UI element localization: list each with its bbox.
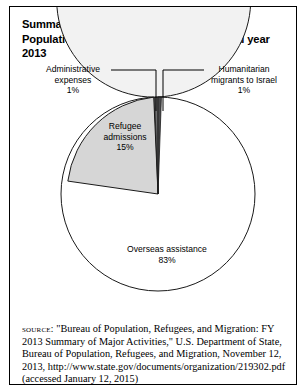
pie-chart-svg [10,7,298,312]
pie-label-overseas-line1: Overseas assistance [104,244,230,255]
callout-humanitarian-line2: migrants to Israel [196,75,292,86]
pie-label-overseas-value: 83% [104,255,230,266]
figure-frame: Summary of major activities of Bureau of… [9,6,297,385]
callout-administrative-value: 1% [27,85,119,96]
pie-label-refugee-line2: admissions [87,132,163,143]
pie-label-refugee-admissions: Refugee admissions 15% [87,121,163,153]
pie-label-refugee-line1: Refugee [87,121,163,132]
pie-label-overseas-assistance: Overseas assistance 83% [104,244,230,265]
pie-label-refugee-value: 15% [87,142,163,153]
source-text: "Bureau of Population, Refugees, and Mig… [22,323,285,384]
callout-administrative-line2: expenses [27,75,119,86]
callout-humanitarian-value: 1% [196,85,292,96]
callout-humanitarian-migrants: Humanitarian migrants to Israel 1% [196,64,292,96]
callout-humanitarian-line1: Humanitarian [196,64,292,75]
source-label: source: [22,324,54,334]
callout-administrative-expenses: Administrative expenses 1% [27,64,119,96]
pie-chart: Administrative expenses 1% Humanitarian … [10,7,298,312]
source-note: source: "Bureau of Population, Refugees,… [22,323,288,386]
callout-administrative-line1: Administrative [27,64,119,75]
